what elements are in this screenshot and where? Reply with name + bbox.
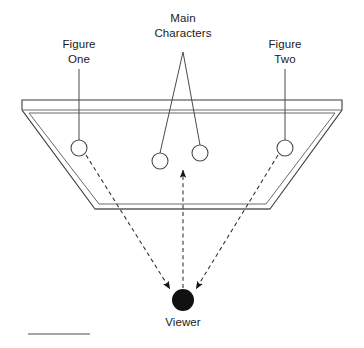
sightline-figure-two (196, 155, 278, 289)
actor-main-character-left (152, 153, 168, 169)
sight-lines-group (86, 155, 278, 289)
label-figure-two-line1: Figure (268, 38, 301, 50)
labels-group: Main Characters Figure One Figure Two Vi… (62, 12, 301, 328)
actors-group (71, 140, 293, 169)
label-figure-one-line1: Figure (62, 38, 95, 50)
label-figure-two-line2: Two (274, 53, 295, 65)
stage-blocking-diagram: Main Characters Figure One Figure Two Vi… (0, 0, 364, 348)
actor-main-character-right (192, 145, 208, 161)
label-main-characters-line1: Main (170, 12, 195, 24)
stage-platform (22, 100, 342, 209)
stage-inner-outline (29, 113, 335, 204)
actor-figure-one (71, 140, 87, 156)
leader-lines-group (79, 52, 285, 153)
label-figure-one-line2: One (68, 53, 90, 65)
viewer-marker (172, 289, 194, 311)
leader-main-right-line (183, 52, 200, 145)
stage-outer-outline (22, 100, 342, 209)
label-viewer: Viewer (165, 316, 201, 328)
actor-figure-two (277, 140, 293, 156)
label-main-characters-line2: Characters (154, 27, 211, 39)
sightline-figure-one (86, 155, 170, 289)
leader-main-left-line (160, 52, 183, 153)
diagram-canvas: Main Characters Figure One Figure Two Vi… (0, 0, 364, 348)
